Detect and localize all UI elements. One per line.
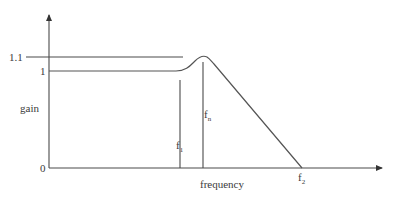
y-tick-label-1: 1 [40,65,46,77]
y-tick-label-1-1: 1.1 [9,51,23,63]
gain-frequency-diagram: 1.1 1 0 gain frequency f1 fn f2 [0,0,399,203]
y-tick-label-0: 0 [40,162,46,174]
x-axis-label: frequency [200,178,244,190]
gain-response-curve [49,56,302,168]
y-axis-label: gain [20,102,39,114]
fn-label: fn [204,108,212,123]
f2-label: f2 [298,171,306,186]
